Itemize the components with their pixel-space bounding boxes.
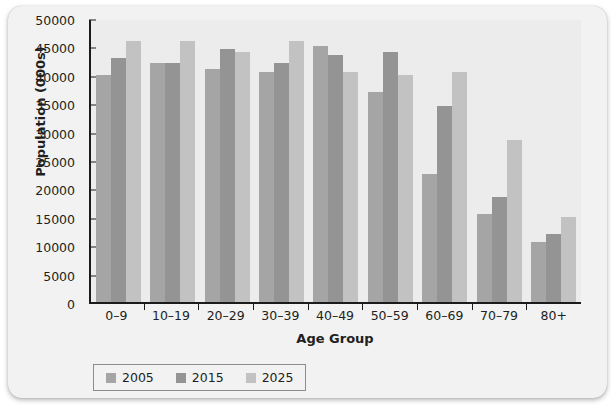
bar [126, 41, 141, 302]
bar-group [527, 20, 581, 302]
legend-swatch-icon [106, 373, 116, 383]
plot-area [89, 20, 581, 304]
legend-label: 2005 [122, 370, 154, 385]
bar [205, 69, 220, 302]
x-axis-tick-mark [417, 304, 418, 310]
y-axis-tick-mark [89, 162, 96, 163]
bar [452, 72, 467, 302]
chart-legend: 200520152025 [93, 364, 306, 391]
x-axis-labels: 0–910–1920–2930–3940–4950–5960–6970–7980… [89, 308, 581, 328]
bar [274, 63, 289, 302]
y-axis-tick-mark [89, 190, 96, 191]
bar-group [472, 20, 526, 302]
x-axis-tick-mark [144, 304, 145, 310]
bar [96, 75, 111, 302]
bar [259, 72, 274, 302]
legend-label: 2025 [262, 370, 294, 385]
bar [437, 106, 452, 302]
y-axis-tick-mark [89, 76, 96, 77]
bar [111, 58, 126, 302]
bar [531, 242, 546, 302]
x-axis-tick-mark [362, 304, 363, 310]
x-axis-tick-label: 20–29 [198, 308, 253, 328]
bar-groups [91, 20, 581, 302]
bar [492, 197, 507, 302]
x-axis-tick-label: 60–69 [417, 308, 472, 328]
x-axis-tick-mark [253, 304, 254, 310]
bar [477, 214, 492, 302]
chart-card: 0500010000150002000025000300003500040000… [8, 6, 607, 398]
bar [150, 63, 165, 302]
legend-swatch-icon [246, 373, 256, 383]
legend-swatch-icon [176, 373, 186, 383]
bar [422, 174, 437, 302]
bar [546, 234, 561, 302]
bar-chart: 0500010000150002000025000300003500040000… [8, 6, 607, 398]
legend-label: 2015 [192, 370, 224, 385]
bar-group [145, 20, 199, 302]
x-axis-tick-mark [308, 304, 309, 310]
y-axis-title: Population (000s) [33, 17, 48, 207]
x-axis-tick-label: 10–19 [144, 308, 199, 328]
y-axis-tick-label: 0 [67, 297, 75, 312]
bar [368, 92, 383, 302]
y-axis-tick-mark [89, 133, 96, 134]
y-axis-tick-mark [89, 105, 96, 106]
y-axis-tick-mark [89, 20, 96, 21]
bar [220, 49, 235, 302]
y-axis-tick-mark [89, 247, 96, 248]
x-axis-tick-label: 80+ [526, 308, 581, 328]
bar [343, 72, 358, 302]
x-axis-title: Age Group [89, 331, 581, 346]
bar-group [254, 20, 308, 302]
x-axis-tick-label: 40–49 [308, 308, 363, 328]
bar [561, 217, 576, 302]
bar [165, 63, 180, 302]
bar [289, 41, 304, 302]
bar [383, 52, 398, 302]
bar [398, 75, 413, 302]
x-axis-tick-label: 70–79 [472, 308, 527, 328]
bar-group [200, 20, 254, 302]
bar [328, 55, 343, 302]
bar-group [363, 20, 417, 302]
bar [507, 140, 522, 302]
legend-item: 2005 [106, 370, 154, 385]
y-axis-tick-mark [89, 275, 96, 276]
bar [313, 46, 328, 302]
bar-group [418, 20, 472, 302]
bar-group [309, 20, 363, 302]
y-axis-tick-mark [89, 218, 96, 219]
y-axis-tick-label: 15000 [35, 211, 75, 226]
bar [180, 41, 195, 302]
x-axis-tick-label: 30–39 [253, 308, 308, 328]
y-axis-tick-label: 5000 [43, 268, 75, 283]
x-axis-tick-mark [472, 304, 473, 310]
x-axis-tick-label: 0–9 [89, 308, 144, 328]
bar [235, 52, 250, 302]
legend-item: 2025 [246, 370, 294, 385]
y-axis-tick-mark [89, 48, 96, 49]
x-axis-tick-mark [198, 304, 199, 310]
legend-item: 2015 [176, 370, 224, 385]
x-axis-tick-label: 50–59 [362, 308, 417, 328]
x-axis-tick-mark [526, 304, 527, 310]
y-axis-tick-label: 10000 [35, 240, 75, 255]
bar-group [91, 20, 145, 302]
